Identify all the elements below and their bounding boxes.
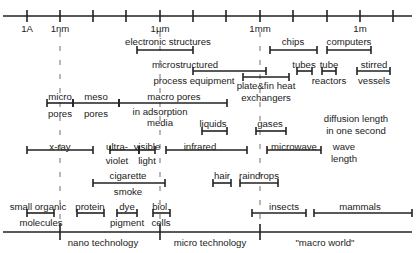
ultraviolet-label: ultra- — [106, 141, 128, 152]
visible-light-label: visible — [134, 141, 161, 152]
meso-pores-label: meso — [84, 91, 107, 102]
wave-length-label: wave — [333, 141, 355, 152]
hair-label: hair — [214, 170, 230, 181]
protein-label: protein — [75, 201, 104, 212]
infrared-label: infrared — [184, 141, 217, 152]
macro-pores-label: macro pores — [147, 91, 200, 102]
stirred-vessels-label: stirred — [361, 59, 388, 70]
ultraviolet-label: violet — [106, 155, 128, 166]
small-organic-molecules-label: small organic — [10, 201, 67, 212]
micro-pores-label: micro — [48, 91, 71, 102]
region-label: "macro world" — [295, 237, 354, 248]
meso-pores-label: pores — [84, 108, 108, 119]
diffusion-length-label: in one second — [326, 125, 386, 136]
cigarette-smoke-label: smoke — [114, 186, 142, 197]
biol-cells-label: cells — [151, 217, 170, 228]
microstructured-process-equipment-label: process equipment — [153, 75, 234, 86]
diffusion-length-label: diffusion length — [324, 113, 388, 124]
axis-label: 1nm — [51, 23, 70, 34]
biol-cells-label: biol. — [152, 201, 170, 212]
plate-fin-heat-exchangers-label: plate&fin heat — [237, 80, 296, 91]
axis-label: 1m — [353, 23, 366, 34]
micro-pores-label: pores — [48, 108, 72, 119]
gases-label: gases — [257, 118, 283, 129]
stirred-vessels-label: vessels — [358, 75, 390, 86]
computers-label: computers — [327, 36, 372, 47]
macro-pores-label: in adsorption — [133, 106, 188, 117]
dye-pigment-label: dye — [119, 201, 134, 212]
mammals-label: mammals — [339, 201, 381, 212]
axis-label: 1mm — [249, 23, 270, 34]
tube-reactors-label: reactors — [312, 75, 347, 86]
chips-label: chips — [282, 36, 304, 47]
wave-length-label: length — [331, 153, 357, 164]
axis-label: 1A — [21, 23, 33, 34]
macro-pores-label: media — [147, 117, 173, 128]
insects-label: insects — [269, 201, 299, 212]
length-scale-diagram: 1A1nm1µm1mm1melectronic structureschipsc… — [0, 0, 417, 253]
region-label: nano technology — [68, 237, 138, 248]
plate-fin-heat-exchangers-label: exchangers — [241, 92, 291, 103]
liquids-label: liquids — [199, 118, 226, 129]
microwave-label: microwave — [271, 141, 317, 152]
tube-reactors-label: tube — [320, 59, 339, 70]
axis-label: 1µm — [151, 23, 170, 34]
visible-light-label: light — [138, 155, 156, 166]
region-label: micro technology — [174, 237, 247, 248]
electronic-structures-label: electronic structures — [125, 36, 211, 47]
small-organic-molecules-label: molecules — [19, 217, 62, 228]
cigarette-smoke-label: cigarette — [110, 170, 147, 181]
x-ray-label: x-ray — [49, 141, 70, 152]
dye-pigment-label: pigment — [110, 217, 144, 228]
microstructured-process-equipment-label: microstructured — [152, 59, 218, 70]
tubes-label: tubes — [292, 59, 315, 70]
raindrops-label: raindrops — [239, 170, 279, 181]
